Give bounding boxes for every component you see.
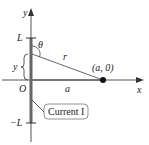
point-label: (a, 0) — [92, 62, 114, 74]
current-diagram: y x O L −L θ r a y (a, 0) Current I — [0, 0, 149, 145]
y-brace — [21, 54, 28, 80]
y-axis-label: y — [22, 7, 28, 18]
callout-leader — [32, 100, 44, 112]
y-segment-label: y — [12, 61, 18, 72]
callout-label: Current I — [48, 106, 84, 117]
r-label: r — [63, 51, 67, 62]
a-label: a — [65, 83, 70, 94]
x-axis-arrow-icon — [136, 77, 144, 83]
tick-L-label: L — [16, 32, 23, 43]
x-axis-label: x — [136, 84, 142, 95]
point-a0 — [100, 77, 106, 83]
origin-label: O — [19, 83, 26, 94]
theta-label: θ — [38, 39, 43, 50]
y-axis-arrow-icon — [28, 8, 34, 16]
tick-neg-L-label: −L — [10, 117, 23, 128]
